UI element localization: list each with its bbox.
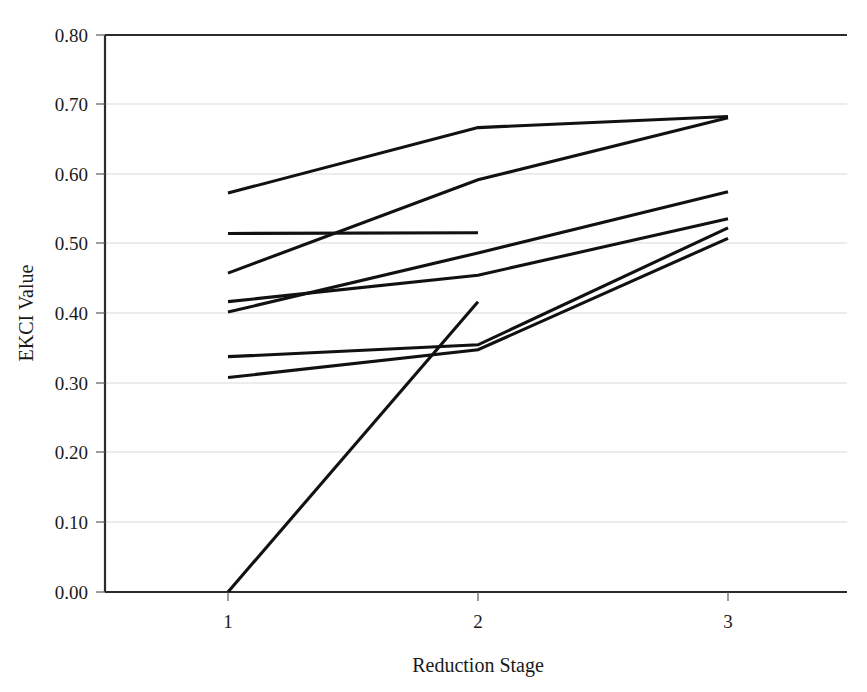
y-tick-label: 0.00 [55,582,88,603]
x-tick-label: 1 [223,611,233,632]
chart-figure: 0.00 0.10 0.20 0.30 0.40 0.50 0.60 0.70 … [0,0,867,692]
y-tick-label: 0.30 [55,373,88,394]
y-tick-label: 0.10 [55,512,88,533]
x-axis-tickmarks [228,592,728,601]
y-axis-tickmarks [96,35,105,592]
line-chart-canvas: 0.00 0.10 0.20 0.30 0.40 0.50 0.60 0.70 … [0,0,867,692]
x-axis-tick-labels: 1 2 3 [223,611,733,632]
x-tick-label: 2 [473,611,483,632]
y-axis-tick-labels: 0.00 0.10 0.20 0.30 0.40 0.50 0.60 0.70 … [55,25,88,603]
y-tick-label: 0.20 [55,442,88,463]
x-tick-label: 3 [723,611,733,632]
y-tick-label: 0.60 [55,164,88,185]
x-axis-title: Reduction Stage [412,654,544,677]
y-tick-label: 0.70 [55,94,88,115]
y-tick-label: 0.80 [55,25,88,46]
y-axis-title: EKCI Value [15,264,37,361]
y-tick-label: 0.50 [55,233,88,254]
y-tick-label: 0.40 [55,303,88,324]
series-line [228,233,478,234]
